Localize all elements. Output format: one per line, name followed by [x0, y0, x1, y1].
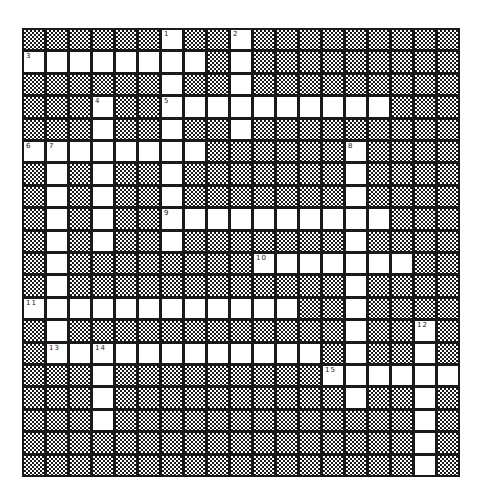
crossword-cell[interactable] [162, 120, 182, 139]
crossword-cell[interactable] [139, 299, 159, 318]
crossword-cell[interactable] [93, 232, 113, 251]
crossword-cell[interactable] [116, 299, 136, 318]
crossword-cell[interactable] [346, 254, 366, 273]
crossword-cell[interactable] [346, 164, 366, 183]
crossword-cell[interactable] [415, 344, 435, 363]
crossword-cell[interactable] [93, 52, 113, 71]
crossword-cell[interactable] [185, 299, 205, 318]
crossword-cell[interactable] [47, 164, 67, 183]
crossword-cell[interactable] [415, 456, 435, 475]
crossword-cell[interactable] [162, 164, 182, 183]
crossword-cell[interactable] [185, 97, 205, 116]
crossword-cell[interactable] [208, 97, 228, 116]
crossword-cell[interactable] [162, 142, 182, 161]
crossword-cell[interactable] [323, 254, 343, 273]
crossword-cell[interactable] [415, 366, 435, 385]
crossword-cell[interactable] [93, 120, 113, 139]
crossword-cell[interactable]: 9 [162, 209, 182, 228]
crossword-cell[interactable] [185, 209, 205, 228]
crossword-cell[interactable] [93, 142, 113, 161]
crossword-cell[interactable] [369, 209, 389, 228]
crossword-cell[interactable] [231, 299, 251, 318]
crossword-cell[interactable] [185, 344, 205, 363]
crossword-cell[interactable] [277, 209, 297, 228]
crossword-cell[interactable] [93, 164, 113, 183]
crossword-cell[interactable] [438, 366, 458, 385]
crossword-cell[interactable] [346, 209, 366, 228]
crossword-cell[interactable] [392, 366, 412, 385]
crossword-cell[interactable] [415, 411, 435, 430]
crossword-cell[interactable] [47, 232, 67, 251]
crossword-cell[interactable] [300, 97, 320, 116]
crossword-cell[interactable] [254, 209, 274, 228]
crossword-cell[interactable] [346, 344, 366, 363]
crossword-cell[interactable] [47, 254, 67, 273]
crossword-cell[interactable] [185, 142, 205, 161]
crossword-cell[interactable] [162, 232, 182, 251]
crossword-cell[interactable] [277, 254, 297, 273]
crossword-cell[interactable] [93, 187, 113, 206]
crossword-cell[interactable] [93, 299, 113, 318]
crossword-cell[interactable] [47, 276, 67, 295]
crossword-cell[interactable] [300, 209, 320, 228]
crossword-cell[interactable]: 7 [47, 142, 67, 161]
crossword-cell[interactable]: 12 [415, 321, 435, 340]
crossword-cell[interactable] [162, 75, 182, 94]
crossword-cell[interactable] [415, 433, 435, 452]
crossword-cell[interactable] [346, 276, 366, 295]
crossword-cell[interactable] [47, 299, 67, 318]
crossword-cell[interactable] [139, 52, 159, 71]
crossword-cell[interactable] [323, 97, 343, 116]
crossword-cell[interactable] [346, 388, 366, 407]
crossword-cell[interactable] [277, 97, 297, 116]
crossword-cell[interactable] [162, 344, 182, 363]
crossword-cell[interactable]: 8 [346, 142, 366, 161]
crossword-cell[interactable] [346, 299, 366, 318]
crossword-cell[interactable] [208, 344, 228, 363]
crossword-cell[interactable]: 11 [24, 299, 44, 318]
crossword-cell[interactable]: 3 [24, 52, 44, 71]
crossword-cell[interactable] [231, 344, 251, 363]
crossword-cell[interactable]: 2 [231, 30, 251, 49]
crossword-cell[interactable] [93, 209, 113, 228]
crossword-cell[interactable] [277, 344, 297, 363]
crossword-cell[interactable] [346, 366, 366, 385]
crossword-cell[interactable] [47, 209, 67, 228]
crossword-cell[interactable] [70, 142, 90, 161]
crossword-cell[interactable] [70, 52, 90, 71]
crossword-cell[interactable] [277, 299, 297, 318]
crossword-cell[interactable] [47, 187, 67, 206]
crossword-cell[interactable] [369, 254, 389, 273]
crossword-cell[interactable] [254, 344, 274, 363]
crossword-cell[interactable]: 1 [162, 30, 182, 49]
crossword-cell[interactable] [346, 232, 366, 251]
crossword-cell[interactable] [231, 52, 251, 71]
crossword-cell[interactable] [47, 52, 67, 71]
crossword-cell[interactable] [231, 97, 251, 116]
crossword-cell[interactable] [346, 187, 366, 206]
crossword-cell[interactable] [254, 299, 274, 318]
crossword-cell[interactable] [162, 299, 182, 318]
crossword-cell[interactable] [346, 97, 366, 116]
crossword-cell[interactable]: 6 [24, 142, 44, 161]
crossword-cell[interactable] [208, 299, 228, 318]
crossword-cell[interactable] [70, 299, 90, 318]
crossword-cell[interactable] [47, 321, 67, 340]
crossword-cell[interactable]: 10 [254, 254, 274, 273]
crossword-cell[interactable]: 15 [323, 366, 343, 385]
crossword-cell[interactable] [346, 321, 366, 340]
crossword-cell[interactable]: 4 [93, 97, 113, 116]
crossword-cell[interactable] [162, 187, 182, 206]
crossword-cell[interactable] [116, 344, 136, 363]
crossword-cell[interactable] [116, 52, 136, 71]
crossword-cell[interactable] [392, 254, 412, 273]
crossword-cell[interactable]: 14 [93, 344, 113, 363]
crossword-cell[interactable] [369, 97, 389, 116]
crossword-cell[interactable] [208, 209, 228, 228]
crossword-cell[interactable] [93, 388, 113, 407]
crossword-cell[interactable] [231, 120, 251, 139]
crossword-cell[interactable] [93, 366, 113, 385]
crossword-cell[interactable] [139, 142, 159, 161]
crossword-cell[interactable] [369, 366, 389, 385]
crossword-cell[interactable] [300, 344, 320, 363]
